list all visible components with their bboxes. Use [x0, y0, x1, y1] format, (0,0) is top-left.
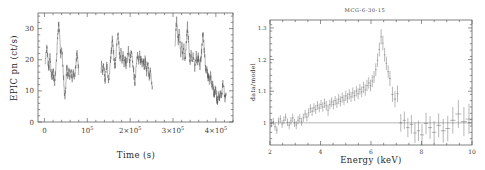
- ratio-spectrum-y-axis-label: data/model: [249, 63, 256, 101]
- ratio-spectrum-y-tick-labels: 11.11.21.3: [258, 25, 267, 126]
- ratio-spectrum-data-points: [271, 29, 472, 145]
- light-curve-panel: 01052×1053×1054×105 0102030 Time (s) EPI…: [0, 0, 242, 170]
- figure-container: 01052×1053×1054×105 0102030 Time (s) EPI…: [0, 0, 485, 170]
- ratio-spectrum-ticks: [270, 20, 472, 145]
- svg-text:2×105: 2×105: [119, 125, 141, 135]
- svg-text:10: 10: [25, 87, 34, 95]
- ratio-spectrum-panel: MCG-6-30-15 246810 11.11.21.3 Energy (ke…: [243, 0, 485, 170]
- light-curve-x-tick-labels: 01052×1053×1054×105: [42, 125, 227, 135]
- light-curve-x-axis-label: Time (s): [117, 150, 155, 160]
- svg-text:3×105: 3×105: [162, 125, 184, 135]
- light-curve-data: [45, 17, 226, 105]
- ratio-spectrum-axes-frame: [270, 20, 472, 145]
- ratio-spectrum-title: MCG-6-30-15: [345, 7, 386, 13]
- light-curve-y-axis-label: EPIC pn (ct/s): [9, 35, 19, 101]
- light-curve-y-tick-labels: 0102030: [25, 25, 34, 126]
- svg-text:6: 6: [369, 148, 373, 155]
- svg-text:105: 105: [81, 125, 93, 135]
- svg-text:1.1: 1.1: [258, 88, 267, 94]
- svg-text:30: 30: [25, 25, 34, 33]
- svg-text:0: 0: [42, 127, 46, 135]
- svg-text:10: 10: [468, 148, 476, 155]
- svg-text:20: 20: [25, 56, 34, 64]
- svg-text:4×105: 4×105: [205, 125, 227, 135]
- ratio-spectrum-x-axis-label: Energy (keV): [340, 155, 401, 165]
- svg-text:2: 2: [268, 148, 272, 155]
- ratio-spectrum-svg: MCG-6-30-15 246810 11.11.21.3 Energy (ke…: [243, 0, 485, 170]
- svg-text:0: 0: [30, 119, 34, 127]
- svg-text:1.2: 1.2: [258, 57, 267, 63]
- svg-text:1.3: 1.3: [258, 25, 267, 31]
- svg-text:1: 1: [263, 120, 267, 126]
- svg-text:8: 8: [420, 148, 424, 155]
- svg-text:4: 4: [319, 148, 323, 155]
- light-curve-svg: 01052×1053×1054×105 0102030 Time (s) EPI…: [0, 0, 242, 170]
- ratio-spectrum-x-tick-labels: 246810: [268, 148, 476, 155]
